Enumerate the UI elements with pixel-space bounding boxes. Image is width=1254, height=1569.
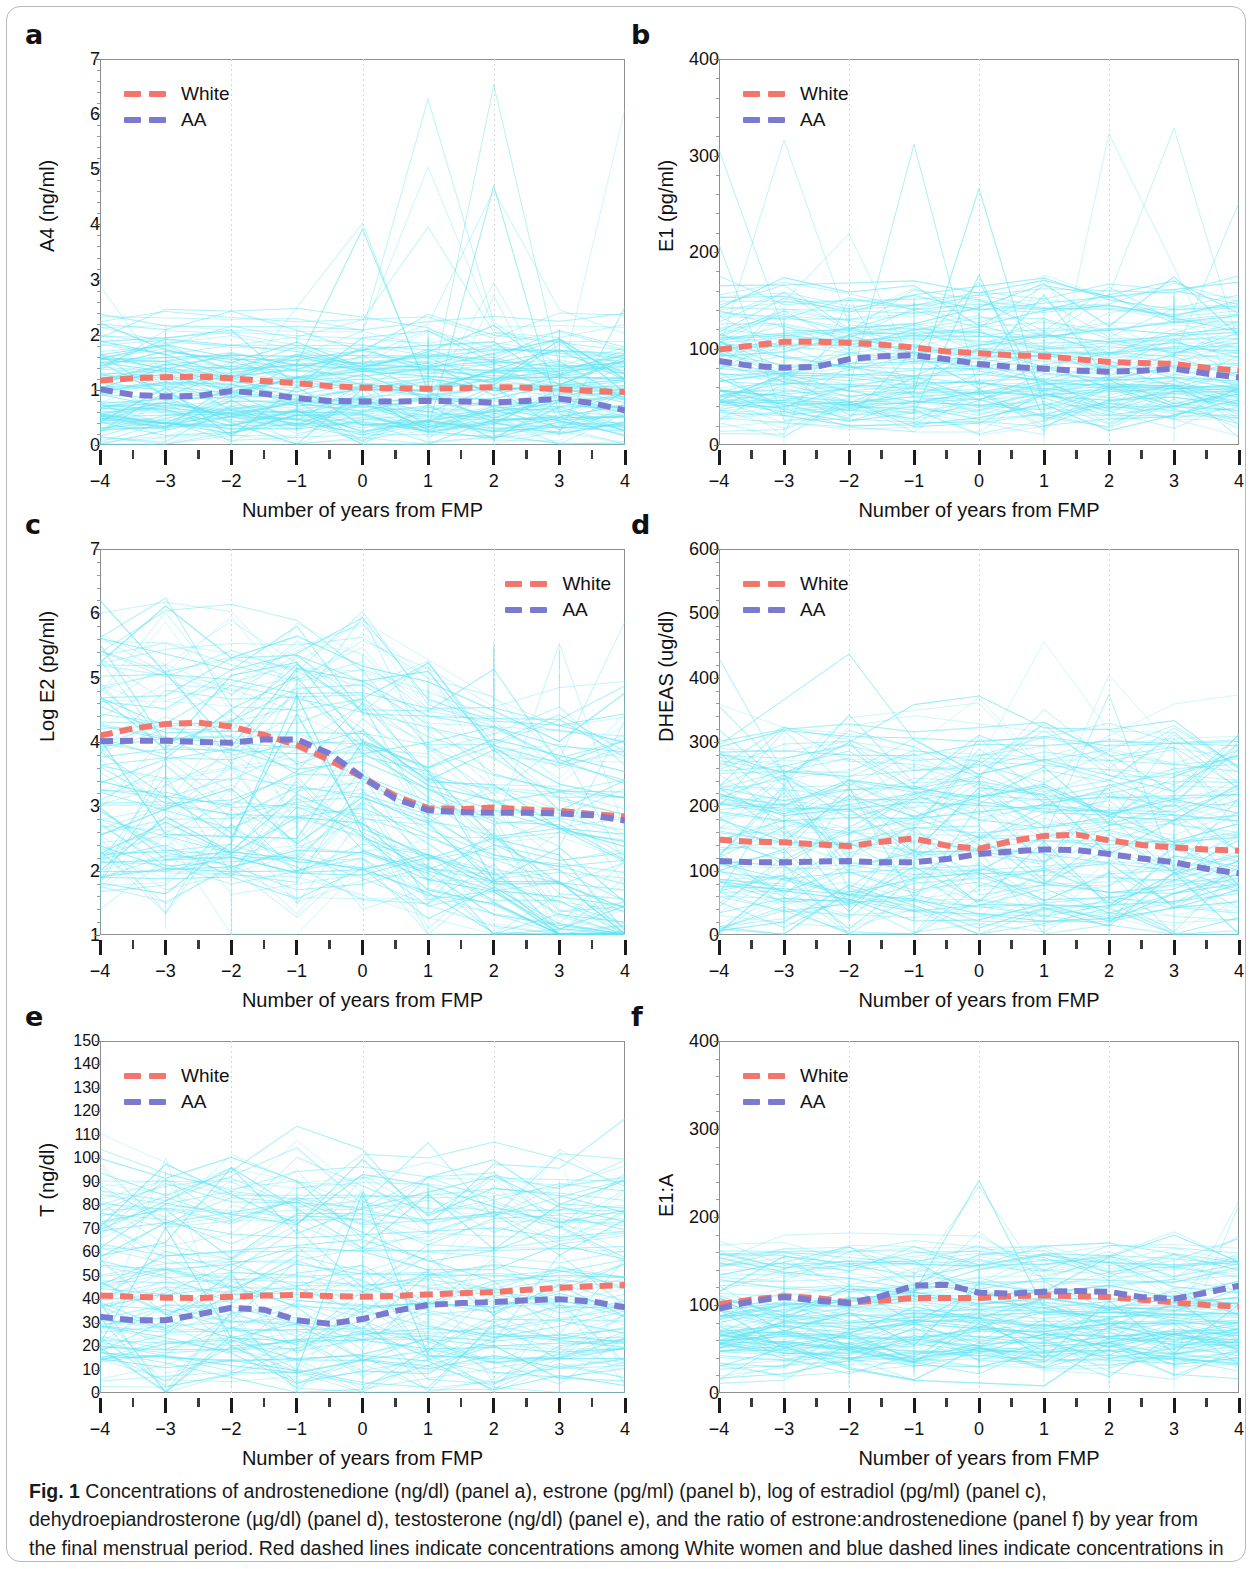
y-minor-tick-d xyxy=(716,781,719,782)
y-minor-tick-c xyxy=(97,793,100,794)
x-minor-tick-b xyxy=(945,450,948,459)
x-tick-mark-c-1 xyxy=(164,940,167,955)
plot-area-d: WhiteAA xyxy=(719,549,1239,935)
x-minor-tick-a xyxy=(591,450,594,459)
y-minor-tick-f xyxy=(716,1199,719,1200)
legend-label-white: White xyxy=(800,1065,849,1087)
y-tick-mark-a-1 xyxy=(95,390,100,391)
y-tick-label-d-6: 600 xyxy=(627,539,726,560)
x-tick-label-f-5: 1 xyxy=(1039,1419,1049,1440)
x-tick-mark-d-2 xyxy=(848,940,851,955)
y-tick-mark-e-13 xyxy=(95,1088,100,1089)
y-tick-mark-d-4 xyxy=(714,678,719,679)
y-minor-tick-b xyxy=(716,213,719,214)
legend-b: WhiteAA xyxy=(743,81,849,133)
y-minor-tick-b xyxy=(716,117,719,118)
x-minor-tick-e xyxy=(591,1398,594,1407)
panel-e: eT (ng/dl)WhiteAA01020304050607080901001… xyxy=(21,1003,639,1485)
y-minor-tick-d xyxy=(716,652,719,653)
x-minor-tick-c xyxy=(460,940,463,949)
y-minor-tick-a xyxy=(97,357,100,358)
x-tick-mark-d-0 xyxy=(718,940,721,955)
x-tick-label-e-3: −1 xyxy=(287,1419,308,1440)
y-minor-tick-f xyxy=(716,1182,719,1183)
x-minor-tick-f xyxy=(1010,1398,1013,1407)
y-minor-tick-f xyxy=(716,1076,719,1077)
x-minor-tick-a xyxy=(525,450,528,459)
y-tick-mark-d-6 xyxy=(714,549,719,550)
y-minor-tick-b xyxy=(716,406,719,407)
y-minor-tick-b xyxy=(716,78,719,79)
legend-label-aa: AA xyxy=(181,109,206,131)
y-minor-tick-c xyxy=(97,703,100,704)
x-tick-label-c-4: 0 xyxy=(357,961,367,982)
x-tick-label-b-2: −2 xyxy=(839,471,860,492)
x-minor-tick-f xyxy=(1140,1398,1143,1407)
x-tick-mark-c-7 xyxy=(558,940,561,955)
panel-letter-a: a xyxy=(25,21,43,48)
x-tick-mark-d-5 xyxy=(1043,940,1046,955)
y-minor-tick-a xyxy=(97,269,100,270)
y-minor-tick-a xyxy=(97,246,100,247)
figure-caption-text: Concentrations of androstenedione (ng/dl… xyxy=(29,1480,1224,1562)
y-minor-tick-b xyxy=(716,233,719,234)
x-tick-mark-a-2 xyxy=(230,450,233,465)
x-minor-tick-c xyxy=(328,940,331,949)
x-tick-label-d-2: −2 xyxy=(839,961,860,982)
x-tick-mark-a-1 xyxy=(164,450,167,465)
y-minor-tick-f xyxy=(716,1270,719,1271)
x-tick-label-e-7: 3 xyxy=(554,1419,564,1440)
y-minor-tick-c xyxy=(97,626,100,627)
y-minor-tick-c xyxy=(97,884,100,885)
y-tick-mark-b-1 xyxy=(714,349,719,350)
y-minor-tick-a xyxy=(97,136,100,137)
y-minor-tick-f xyxy=(716,1059,719,1060)
y-minor-tick-d xyxy=(716,922,719,923)
x-tick-label-b-6: 2 xyxy=(1104,471,1114,492)
legend-item-aa: AA xyxy=(124,1089,230,1115)
x-minor-tick-a xyxy=(394,450,397,459)
x-tick-mark-e-2 xyxy=(230,1398,233,1413)
y-minor-tick-d xyxy=(716,896,719,897)
x-axis-label-f: Number of years from FMP xyxy=(719,1447,1239,1470)
x-tick-mark-e-6 xyxy=(492,1398,495,1413)
panel-letter-f: f xyxy=(631,1003,643,1030)
x-tick-mark-c-5 xyxy=(427,940,430,955)
x-tick-mark-b-4 xyxy=(978,450,981,465)
x-minor-tick-c xyxy=(197,940,200,949)
y-minor-tick-f xyxy=(716,1235,719,1236)
y-minor-tick-b xyxy=(716,387,719,388)
y-minor-tick-c xyxy=(97,858,100,859)
y-minor-tick-c xyxy=(97,845,100,846)
x-minor-tick-f xyxy=(1075,1398,1078,1407)
y-minor-tick-d xyxy=(716,858,719,859)
panel-a: aA4 (ng/ml)WhiteAA01234567−4−3−2−101234N… xyxy=(21,21,639,537)
x-tick-label-c-5: 1 xyxy=(423,961,433,982)
y-tick-label-f-1: 100 xyxy=(627,1295,726,1316)
y-minor-tick-b xyxy=(716,291,719,292)
y-minor-tick-c xyxy=(97,832,100,833)
y-minor-tick-f xyxy=(716,1375,719,1376)
x-tick-label-d-4: 0 xyxy=(974,961,984,982)
y-tick-mark-e-12 xyxy=(95,1111,100,1112)
x-tick-mark-d-6 xyxy=(1108,940,1111,955)
y-tick-mark-c-0 xyxy=(95,935,100,936)
x-tick-label-a-6: 2 xyxy=(489,471,499,492)
y-tick-mark-e-1 xyxy=(95,1370,100,1371)
y-tick-mark-e-10 xyxy=(95,1158,100,1159)
y-minor-tick-b xyxy=(716,368,719,369)
y-minor-tick-d xyxy=(716,703,719,704)
y-tick-mark-e-2 xyxy=(95,1346,100,1347)
y-minor-tick-d xyxy=(716,600,719,601)
legend-e: WhiteAA xyxy=(124,1063,230,1115)
x-tick-mark-d-4 xyxy=(978,940,981,955)
x-tick-mark-c-0 xyxy=(99,940,102,955)
y-tick-mark-c-4 xyxy=(95,678,100,679)
x-tick-label-e-4: 0 xyxy=(357,1419,367,1440)
x-tick-mark-b-8 xyxy=(1238,450,1241,465)
y-minor-tick-c xyxy=(97,600,100,601)
y-minor-tick-a xyxy=(97,81,100,82)
x-tick-label-f-8: 4 xyxy=(1234,1419,1244,1440)
y-minor-tick-c xyxy=(97,896,100,897)
x-tick-label-f-1: −3 xyxy=(774,1419,795,1440)
